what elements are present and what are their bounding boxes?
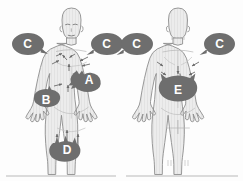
anterior-head <box>62 8 81 39</box>
marker-c-left-front-label: C <box>23 37 32 51</box>
anterior-neck <box>67 38 77 45</box>
marker-e-lumbar-label: E <box>174 83 182 97</box>
diagram-canvas: C C C C A B D <box>0 0 243 181</box>
marker-e-lumbar[interactable]: E <box>159 74 197 102</box>
marker-b-flank-label: B <box>42 93 51 107</box>
marker-d-pelvis-label: D <box>63 143 72 157</box>
posterior-head <box>169 8 188 39</box>
marker-c-right-back-label: C <box>215 37 224 51</box>
posterior-neck <box>173 38 183 45</box>
marker-c-left-back-label: C <box>132 37 141 51</box>
marker-c-right-front-label: C <box>102 37 111 51</box>
marker-a-chest-label: A <box>85 73 94 87</box>
body-pain-diagram: C C C C A B D <box>0 0 243 181</box>
